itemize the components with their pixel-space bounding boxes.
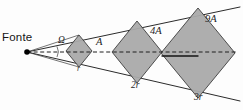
- label-distance-3r: 3r: [194, 93, 202, 103]
- label-distance-2r: 2r: [131, 81, 139, 91]
- figure-canvas: Fonte Ω A 4A 9A r 2r 3r: [0, 0, 243, 110]
- label-distance-r: r: [77, 65, 80, 73]
- label-solid-angle-omega: Ω: [58, 36, 65, 46]
- label-area-9a: 9A: [205, 14, 217, 25]
- label-fonte: Fonte: [2, 32, 32, 44]
- source-point-dot: [24, 49, 30, 55]
- label-area-a: A: [96, 37, 102, 48]
- label-area-4a: 4A: [150, 26, 162, 37]
